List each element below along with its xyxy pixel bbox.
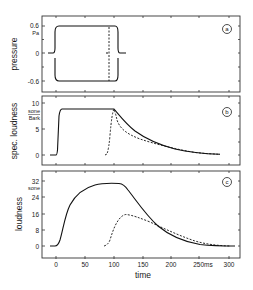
y-tick-16: 16 <box>32 211 40 218</box>
solid-curve <box>50 109 220 155</box>
x-tick-50: 50 <box>81 261 89 268</box>
panel-c: 32 sone 24 16 8 0 loudness 0 50 100 150 … <box>14 171 240 280</box>
svg-text:a: a <box>225 26 229 32</box>
svg-text:b: b <box>225 109 229 115</box>
y-axis-label-pressure: pressure <box>9 37 19 70</box>
dashed-curve <box>105 109 220 155</box>
solid-envelope <box>48 26 126 81</box>
figure: 0.6 Pa 0 -0.6 pressure a <box>0 0 253 290</box>
y-tick-neg0.6: -0.6 <box>28 78 40 85</box>
y-axis-label-loudness: loudness <box>14 197 24 231</box>
panel-c-label: c <box>223 178 232 187</box>
y-unit-bark: Bark <box>29 115 41 121</box>
y-tick-32: 32 <box>32 178 40 185</box>
y-tick-24: 24 <box>32 194 40 201</box>
y-unit-pa: Pa <box>32 30 40 36</box>
panel-b-label: b <box>223 108 232 117</box>
y-axis-label-spec-loudness: spec. loudness <box>9 103 19 160</box>
solid-curve <box>50 183 235 246</box>
y-tick-8: 8 <box>35 227 39 234</box>
x-tick-150: 150 <box>138 261 149 268</box>
y-tick-10: 10 <box>32 100 40 107</box>
dashed-curve <box>104 215 230 247</box>
y-unit-sone: sone <box>28 108 40 114</box>
x-axis-label-time: time <box>135 270 151 280</box>
x-tick-250ms: 250ms <box>193 261 213 268</box>
panel-a-label: a <box>223 25 232 34</box>
y-unit-sone: sone <box>28 185 40 191</box>
y-tick-0: 0 <box>35 152 39 159</box>
x-tick-300: 300 <box>224 261 235 268</box>
y-tick-5: 5 <box>35 126 39 133</box>
y-tick-0: 0 <box>35 50 39 57</box>
panel-b: 10 sone Bark 5 0 spec. loudness b <box>9 96 240 165</box>
x-tick-100: 100 <box>109 261 120 268</box>
panel-a: 0.6 Pa 0 -0.6 pressure a <box>9 16 240 92</box>
x-tick-0: 0 <box>54 261 58 268</box>
svg-text:c: c <box>226 179 229 185</box>
x-tick-200: 200 <box>166 261 177 268</box>
panel-b-frame <box>42 96 240 165</box>
y-tick-0: 0 <box>35 243 39 250</box>
y-tick-0.6: 0.6 <box>30 22 39 29</box>
